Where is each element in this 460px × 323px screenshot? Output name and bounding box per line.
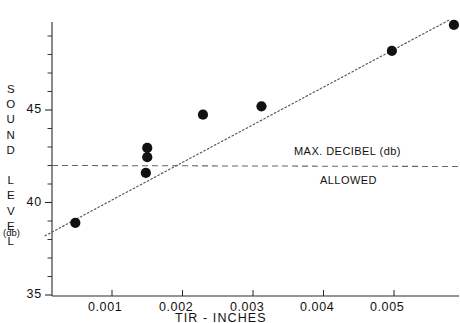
y-axis-title: SOUND LEVEL xyxy=(2,82,20,249)
x-axis-title: TIR - INCHES xyxy=(175,311,267,323)
x-tick-label-4: 0.005 xyxy=(370,300,404,314)
data-point xyxy=(141,168,151,178)
scatter-plot-canvas xyxy=(0,0,460,323)
y-tick-label-40: 40 xyxy=(18,195,42,209)
max-decibel-limit-line xyxy=(52,166,459,167)
data-point xyxy=(256,101,266,111)
limit-label-max-decibel: MAX. DECIBEL (db) xyxy=(294,145,401,157)
data-point xyxy=(142,143,152,153)
y-axis-title-letter: V xyxy=(2,204,20,219)
data-point xyxy=(387,46,397,56)
data-point xyxy=(449,20,459,30)
data-point xyxy=(70,218,80,228)
y-axis-title-letter: D xyxy=(2,143,20,158)
y-tick-label-35: 35 xyxy=(18,287,42,301)
data-point xyxy=(142,152,152,162)
x-tick-label-0: 0.001 xyxy=(88,300,122,314)
x-axis-ticks xyxy=(112,290,394,296)
y-axis-title-letter: E xyxy=(2,188,20,203)
limit-label-allowed: ALLOWED xyxy=(320,174,377,186)
y-axis-ticks xyxy=(45,36,52,295)
y-axis-title-letter: U xyxy=(2,112,20,127)
chart-figure: 45 40 35 SOUND LEVEL (db) 0.001 0.002 0.… xyxy=(0,0,460,323)
y-tick-label-45: 45 xyxy=(18,102,42,116)
y-axis-unit-label: (db) xyxy=(3,227,20,238)
x-tick-label-3: 0.004 xyxy=(300,300,334,314)
data-point-group xyxy=(70,20,459,228)
y-axis-title-letter: S xyxy=(2,82,20,97)
y-axis-title-letter: O xyxy=(2,97,20,112)
y-axis-title-gap xyxy=(2,158,20,173)
y-axis-title-letter: N xyxy=(2,128,20,143)
data-point xyxy=(198,110,208,120)
y-axis-title-letter: L xyxy=(2,173,20,188)
